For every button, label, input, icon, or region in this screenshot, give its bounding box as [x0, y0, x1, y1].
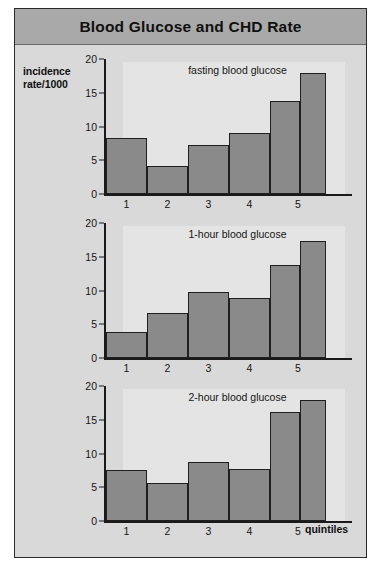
y-axis-ticks: 05101520 [75, 386, 97, 521]
x-tick-label: 1 [124, 362, 130, 374]
y-tick-label: 10 [85, 121, 97, 133]
y-tick-label: 15 [85, 251, 97, 263]
x-tick-label: 1 [124, 525, 130, 537]
y-tick-label: 0 [91, 515, 97, 527]
x-tick-label: 5 [295, 362, 301, 374]
y-tick-label: 20 [85, 380, 97, 392]
bar [270, 412, 300, 521]
bar [270, 265, 300, 358]
bar [147, 483, 188, 521]
y-tick-label: 0 [91, 188, 97, 200]
x-tick-label: 1 [124, 198, 130, 210]
y-axis-ticks: 05101520 [75, 59, 97, 194]
x-tick-label: 2 [165, 198, 171, 210]
y-tick-label: 5 [91, 154, 97, 166]
bar [147, 313, 188, 358]
x-tick-label: 5 [295, 525, 301, 537]
y-tick-label: 10 [85, 448, 97, 460]
y-axis-line [104, 59, 106, 195]
x-axis-line [104, 194, 352, 196]
y-axis-line [104, 223, 106, 359]
bar [106, 470, 147, 521]
y-tick-label: 15 [85, 87, 97, 99]
y-tick-label: 15 [85, 414, 97, 426]
chart-panel-1hour: 051015201-hour blood glucose12345 [75, 223, 360, 378]
x-tick-label: 2 [165, 362, 171, 374]
y-tick-label: 5 [91, 481, 97, 493]
x-tick-label: 3 [206, 362, 212, 374]
bar [270, 101, 300, 194]
x-tick-label: 4 [247, 525, 253, 537]
bar [188, 292, 229, 358]
figure-panel: Blood Glucose and CHD Rate incidence rat… [14, 8, 367, 558]
y-tick-label: 10 [85, 285, 97, 297]
bar [147, 166, 188, 194]
y-axis-ticks: 05101520 [75, 223, 97, 358]
bar-series [106, 59, 328, 194]
y-tick-label: 20 [85, 53, 97, 65]
x-axis-ticks: 12345 [106, 198, 328, 214]
y-tick-label: 20 [85, 217, 97, 229]
x-tick-label: 4 [247, 362, 253, 374]
x-axis-ticks: 12345 [106, 362, 328, 378]
y-tick-label: 0 [91, 352, 97, 364]
bar [188, 462, 229, 521]
bar-series [106, 386, 328, 521]
bar [229, 298, 270, 358]
bar [229, 133, 270, 194]
x-tick-label: 3 [206, 198, 212, 210]
chart-panel-fasting: 05101520fasting blood glucose12345 [75, 59, 360, 214]
x-axis-ticks: 12345 [106, 525, 328, 541]
bar [106, 332, 147, 358]
bar [300, 400, 326, 522]
y-axis-line [104, 386, 106, 522]
x-axis-label: quintiles [305, 523, 348, 535]
x-axis-line [104, 358, 352, 360]
bar-series [106, 223, 328, 358]
x-tick-label: 3 [206, 525, 212, 537]
bar [229, 469, 270, 521]
bar [300, 73, 326, 194]
chart-panel-2hour: 051015202-hour blood glucose12345 [75, 386, 360, 541]
figure-title-bar: Blood Glucose and CHD Rate [15, 9, 366, 45]
bar [106, 138, 147, 194]
page-title: Blood Glucose and CHD Rate [79, 18, 301, 36]
bar [300, 241, 326, 358]
x-tick-label: 2 [165, 525, 171, 537]
bar [188, 145, 229, 194]
y-tick-label: 5 [91, 318, 97, 330]
x-tick-label: 5 [295, 198, 301, 210]
x-tick-label: 4 [247, 198, 253, 210]
